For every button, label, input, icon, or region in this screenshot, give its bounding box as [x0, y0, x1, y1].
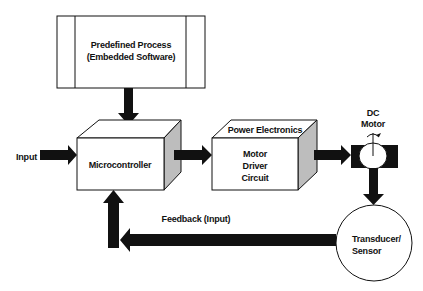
dc-motor-line2: Motor: [361, 119, 386, 129]
arrow-process-to-micro: [118, 88, 139, 125]
dc-motor-line1: DC: [367, 108, 380, 118]
motor-driver-line1: Motor: [243, 149, 268, 159]
predefined-process-line2: (Embedded Software): [87, 52, 176, 62]
predefined-process-line1: Predefined Process: [91, 40, 172, 50]
sensor-line2: Sensor: [352, 246, 382, 256]
motor-driver-line3: Circuit: [241, 173, 268, 183]
block-diagram: Predefined Process (Embedded Software) M…: [0, 0, 423, 291]
power-electronics-title: Power Electronics: [228, 125, 303, 135]
motor-driver-line2: Driver: [243, 161, 269, 171]
predefined-process-block: Predefined Process (Embedded Software): [57, 16, 205, 88]
arrow-motor-to-sensor: [363, 168, 384, 205]
arrow-power-to-motor: [314, 145, 351, 165]
feedback-label: Feedback (Input): [162, 214, 231, 224]
dc-motor: DC Motor: [351, 108, 398, 169]
arrow-input: [40, 145, 77, 165]
sensor-line1: Transducer/: [352, 234, 402, 244]
arrow-feedback-horizontal: [120, 228, 336, 252]
microcontroller-label: Microcontroller: [89, 160, 152, 170]
input-label: Input: [16, 152, 37, 162]
microcontroller-block: Microcontroller: [77, 120, 181, 190]
power-electronics-block: Power Electronics Motor Driver Circuit: [212, 120, 317, 190]
transducer-sensor: Transducer/ Sensor: [336, 205, 412, 281]
